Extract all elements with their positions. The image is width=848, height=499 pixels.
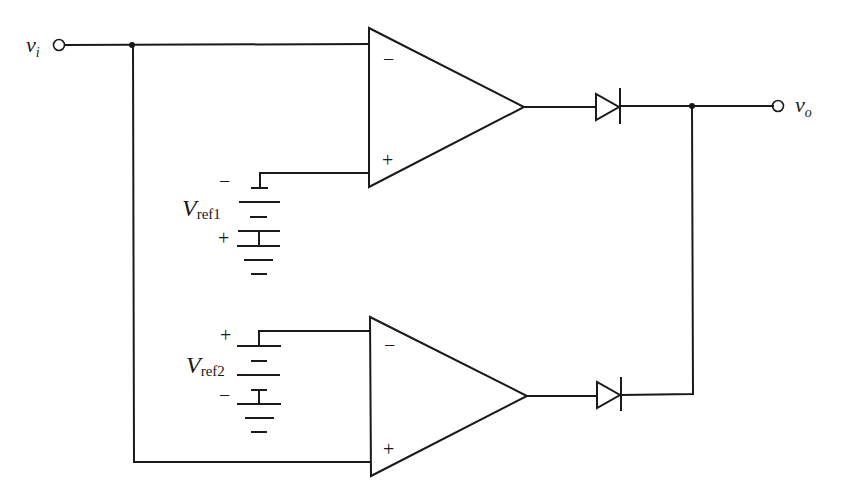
output-return-wire xyxy=(622,106,693,395)
vref1-bottom-polarity: + xyxy=(218,227,229,249)
input-terminal-circle xyxy=(54,40,65,51)
opamp-bottom-inverting-sign: − xyxy=(384,334,395,356)
diode-bottom xyxy=(597,378,621,410)
vref1-top-polarity: − xyxy=(219,170,230,192)
vref2-label: Vref2 xyxy=(186,352,225,379)
vref2-top-polarity: + xyxy=(220,324,231,346)
opamp-bottom-noninverting-sign: + xyxy=(383,438,394,460)
vref1-label: Vref1 xyxy=(182,195,221,222)
circuit-diagram: vi vo − + − + − + Vref1 + − Vref2 xyxy=(0,0,848,499)
input-terminal xyxy=(54,40,65,51)
diode-top xyxy=(596,89,620,123)
opamp-top-plus-wire xyxy=(260,173,369,188)
diode-bottom-triangle xyxy=(597,382,620,408)
input-feed-to-bottom-opamp xyxy=(133,45,370,462)
battery-vref2 xyxy=(238,346,280,432)
opamp-top-inverting-sign: − xyxy=(383,48,394,70)
opamp-bottom-minus-wire xyxy=(259,331,370,346)
input-wire xyxy=(65,44,369,45)
input-label: vi xyxy=(26,32,40,60)
output-terminal-circle xyxy=(773,101,784,112)
battery-vref1 xyxy=(238,188,279,274)
output-label: vo xyxy=(795,92,812,120)
vref2-bottom-polarity: − xyxy=(219,384,230,406)
diode-top-triangle xyxy=(596,94,619,120)
opamp-top-noninverting-sign: + xyxy=(382,149,393,171)
